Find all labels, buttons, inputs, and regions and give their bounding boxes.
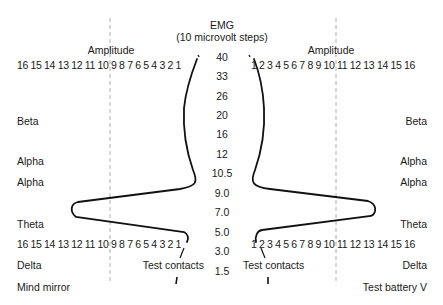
emg-value: 1.5 [206, 265, 238, 277]
bottom-amplitude-scale-right: 1 2 3 4 5 6 7 8 9 10 11 12 13 14 15 16 [251, 238, 415, 250]
emg-value: 10.5 [206, 167, 238, 179]
test-contacts-right: Test contacts [243, 259, 304, 271]
emg-value: 33 [206, 70, 238, 82]
band-label-theta-right: Theta [400, 218, 427, 230]
band-label-theta-left: Theta [17, 218, 44, 230]
amplitude-label-left: Amplitude [80, 44, 142, 56]
left-amplitude-curve [72, 59, 197, 242]
emg-value: 16 [206, 128, 238, 140]
right-amplitude-curve [253, 59, 376, 242]
band-label-beta-right: Beta [405, 115, 427, 127]
top-amplitude-scale-left: 16 15 14 13 12 11 10 9 8 7 6 5 4 3 2 1 [17, 59, 181, 71]
amplitude-label-right: Amplitude [300, 44, 362, 56]
band-label-beta-left: Beta [17, 115, 39, 127]
emg-value: 12 [206, 148, 238, 160]
test-contacts-left: Test contacts [136, 259, 204, 271]
band-label-alpha1-right: Alpha [400, 155, 427, 167]
emg-value: 3.0 [206, 245, 238, 257]
emg-title: EMG [186, 19, 258, 31]
band-label-alpha2-right: Alpha [400, 176, 427, 188]
emg-value: 9.0 [206, 187, 238, 199]
bottom-amplitude-scale-left: 16 15 14 13 12 11 10 9 8 7 6 5 4 3 2 1 [17, 238, 181, 250]
emg-value: 26 [206, 90, 238, 102]
emg-subtitle: (10 microvolt steps) [172, 31, 272, 43]
band-label-delta-left: Delta [17, 259, 42, 271]
right-top-tick [249, 55, 250, 57]
panel-title-mind-mirror: Mind mirror [17, 281, 70, 293]
top-amplitude-scale-right: 1 2 3 4 5 6 7 8 9 10 11 12 13 14 15 16 [251, 59, 415, 71]
band-label-delta-right: Delta [402, 259, 427, 271]
emg-value: 5.0 [206, 226, 238, 238]
emg-value: 20 [206, 109, 238, 121]
emg-value: 7.0 [206, 206, 238, 218]
band-label-alpha1-left: Alpha [17, 155, 44, 167]
panel-title-test-battery-v: Test battery V [363, 281, 427, 293]
band-label-alpha2-left: Alpha [17, 176, 44, 188]
emg-value: 40 [206, 51, 238, 63]
left-test-contact-stub [176, 277, 177, 284]
left-top-tick [198, 55, 199, 57]
